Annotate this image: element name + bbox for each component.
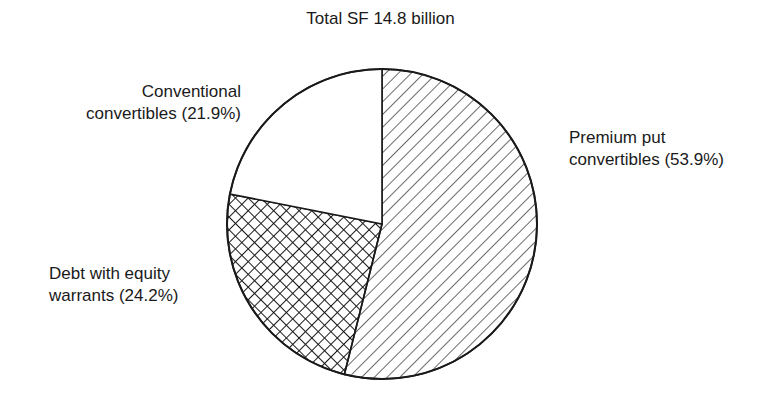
label-premium-put-convertibles: Premium put convertibles (53.9%) <box>569 127 724 171</box>
label-conventional-convertibles: Conventional convertibles (21.9%) <box>86 81 241 125</box>
pie-chart <box>0 0 761 414</box>
label-debt-with-equity-warrants: Debt with equity warrants (24.2%) <box>49 263 178 307</box>
pie-slices <box>227 69 537 379</box>
